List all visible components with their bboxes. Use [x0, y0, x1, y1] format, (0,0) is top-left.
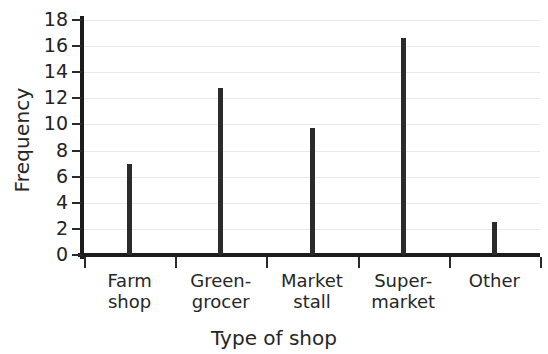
x-axis-tick [84, 257, 86, 268]
bar [218, 88, 223, 255]
bar [310, 128, 315, 255]
gridline [84, 46, 540, 47]
y-axis-tick-label: 6 [24, 167, 68, 186]
x-axis-tick-label-line: Other [449, 270, 540, 291]
y-axis-tick-label: 0 [24, 245, 68, 264]
x-axis-tick [175, 257, 177, 268]
x-axis-tick-label: Other [449, 270, 540, 291]
x-axis-tick [449, 257, 451, 268]
x-axis-tick-label: Farmshop [84, 270, 175, 312]
y-axis-tick [72, 176, 82, 178]
gridline [84, 98, 540, 99]
y-axis-line [80, 16, 84, 259]
bar [127, 164, 132, 255]
y-axis-tick-label: 8 [24, 141, 68, 160]
x-axis-tick-label-line: stall [266, 291, 357, 312]
gridline [84, 72, 540, 73]
y-axis-tick-label: 18 [24, 10, 68, 29]
y-axis-tick-label: 10 [24, 114, 68, 133]
y-axis-tick-label: 14 [24, 62, 68, 81]
gridline [84, 20, 540, 21]
x-axis-tick [266, 257, 268, 268]
y-axis-tick [72, 19, 82, 21]
bar [492, 222, 497, 255]
y-axis-tick [72, 123, 82, 125]
x-axis-tick-label-line: shop [84, 291, 175, 312]
x-axis-tick-label-line: Market [266, 270, 357, 291]
y-axis-tick [72, 228, 82, 230]
x-axis-tick-label: Green-grocer [175, 270, 266, 312]
x-axis-tick-label: Super-market [358, 270, 449, 312]
y-axis-tick [72, 150, 82, 152]
y-axis-tick-label: 16 [24, 36, 68, 55]
y-axis-tick-label: 12 [24, 88, 68, 107]
y-axis-tick [72, 97, 82, 99]
y-axis-tick [72, 45, 82, 47]
y-axis-tick [72, 71, 82, 73]
y-axis-tick [72, 254, 82, 256]
y-axis-tick-label: 2 [24, 219, 68, 238]
y-axis-tick [72, 202, 82, 204]
x-axis-tick-label-line: market [358, 291, 449, 312]
y-axis-tick-label: 4 [24, 193, 68, 212]
x-axis-tick-label: Marketstall [266, 270, 357, 312]
bar [401, 38, 406, 255]
gridline [84, 124, 540, 125]
frequency-bar-chart: Frequency 024681012141618 FarmshopGreen-… [0, 0, 548, 354]
x-axis-tick-label-line: Green- [175, 270, 266, 291]
x-axis-tick-label-line: grocer [175, 291, 266, 312]
x-axis-tick [358, 257, 360, 268]
x-axis-tick [540, 257, 542, 268]
x-axis-title: Type of shop [0, 326, 548, 350]
x-axis-tick-label-line: Super- [358, 270, 449, 291]
x-axis-tick-label-line: Farm [84, 270, 175, 291]
